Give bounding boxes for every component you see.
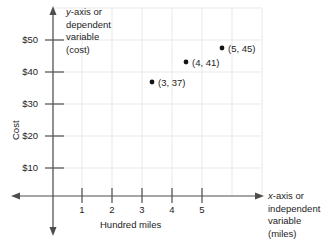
x-tick-label: 3	[133, 204, 151, 216]
x-axis-caption: x-axis or independent variable (miles)	[268, 190, 329, 240]
y-axis-caption-line-3: variable	[66, 31, 152, 44]
y-axis-title: Cost	[10, 120, 21, 140]
y-axis-up-arrow	[50, 6, 57, 15]
x-axis-right-arrow	[255, 193, 264, 200]
y-tick-label: $40	[2, 66, 38, 78]
x-tick-label: 1	[73, 204, 91, 216]
x-tick-label: 4	[163, 204, 181, 216]
scatter-plot-figure: $50 $40 $30 $20 $10 1 2 3 4 5 (3, 37) (4…	[0, 0, 329, 249]
x-axis-caption-line-2: independent	[268, 203, 329, 216]
x-axis-title: Hundred miles	[100, 219, 161, 230]
x-axis-caption-line-3: variable	[268, 215, 329, 228]
data-point	[184, 60, 189, 65]
y-axis-caption: y-axis or dependent variable (cost)	[66, 6, 152, 56]
x-tick-label: 5	[193, 204, 211, 216]
y-axis-caption-line-1-rest: -axis or	[71, 6, 102, 17]
data-point-label: (5, 45)	[228, 43, 255, 55]
y-tick-label: $50	[2, 34, 38, 46]
x-axis-left-arrow	[11, 193, 20, 200]
x-axis-caption-line-1-rest: -axis or	[273, 190, 304, 201]
x-tick-label: 2	[103, 204, 121, 216]
data-point-label: (3, 37)	[158, 77, 185, 89]
data-point-label: (4, 41)	[192, 57, 219, 69]
x-axis-caption-line-1: x-axis or	[268, 190, 329, 203]
data-point	[220, 46, 225, 51]
y-axis-caption-line-4: (cost)	[66, 44, 152, 57]
data-point	[150, 80, 155, 85]
y-axis-caption-line-1: y-axis or	[66, 6, 152, 19]
x-axis-caption-line-4: (miles)	[268, 228, 329, 241]
y-tick-label: $30	[2, 98, 38, 110]
y-tick-label: $10	[2, 162, 38, 174]
y-tick-marks	[45, 40, 64, 168]
y-axis-caption-line-2: dependent	[66, 19, 152, 32]
y-axis-down-arrow	[50, 227, 57, 236]
